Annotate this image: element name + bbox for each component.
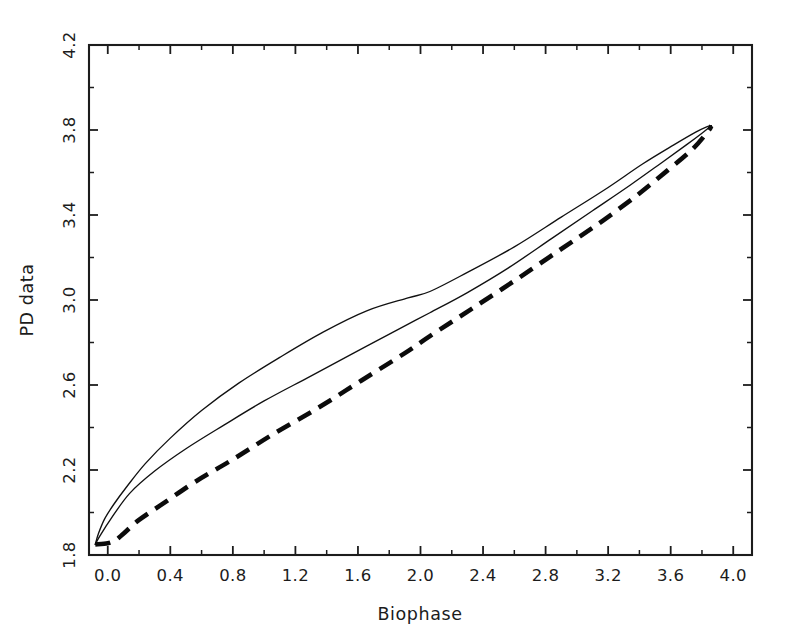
x-tick-label: 1.6 — [344, 566, 371, 585]
x-tick-label: 4.0 — [720, 566, 747, 585]
y-tick-label: 2.6 — [60, 371, 79, 398]
chart-figure: 0.00.40.81.21.62.02.42.83.23.64.0 1.82.2… — [0, 0, 798, 644]
x-tick-label: 0.0 — [94, 566, 121, 585]
y-tick-label: 2.2 — [60, 456, 79, 483]
x-tick-label: 0.8 — [219, 566, 246, 585]
y-tick-label: 1.8 — [60, 541, 79, 568]
y-tick-label: 4.2 — [60, 31, 79, 58]
y-tick-label: 3.0 — [60, 286, 79, 313]
x-tick-label: 0.4 — [157, 566, 184, 585]
chart-canvas: 0.00.40.81.21.62.02.42.83.23.64.0 1.82.2… — [0, 0, 798, 644]
x-tick-label: 2.4 — [469, 566, 496, 585]
y-axis-title: PD data — [17, 263, 37, 336]
y-tick-label: 3.8 — [60, 116, 79, 143]
x-tick-label: 3.6 — [657, 566, 684, 585]
x-tick-label: 1.2 — [282, 566, 309, 585]
x-tick-label: 3.2 — [594, 566, 621, 585]
x-tick-label: 2.8 — [532, 566, 559, 585]
figure-background — [0, 0, 798, 644]
x-axis-title: Biophase — [377, 604, 462, 624]
y-tick-label: 3.4 — [60, 201, 79, 228]
x-tick-label: 2.0 — [407, 566, 434, 585]
